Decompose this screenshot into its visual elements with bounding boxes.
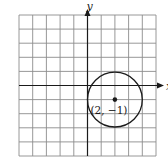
center-point-label: (2, −1) <box>90 104 127 116</box>
y-axis: y <box>85 0 94 156</box>
center-point <box>113 97 118 102</box>
y-axis-label: y <box>86 0 94 13</box>
x-axis: x <box>19 80 168 93</box>
x-axis-arrow-icon <box>157 83 164 89</box>
coordinate-plane: x y (2, −1) <box>0 0 168 164</box>
x-axis-label: x <box>166 80 168 93</box>
